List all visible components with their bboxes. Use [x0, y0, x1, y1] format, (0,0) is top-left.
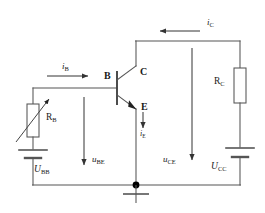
component-label-ucc: UCC: [211, 162, 227, 172]
terminal-label-base: B: [104, 71, 111, 81]
ground-symbol: [123, 185, 149, 203]
voltage-label-ube: uBE: [92, 155, 105, 164]
transistor-emitter-arrowhead: [128, 100, 136, 109]
resistor-rc-body: [234, 68, 246, 103]
terminal-label-collector: C: [140, 67, 147, 77]
terminal-label-emitter: E: [141, 102, 148, 112]
transistor-collector-lead: [117, 66, 136, 80]
circuit-diagram: B C E iB iC iE uBE uCE RB RC UBB UCC: [0, 0, 265, 213]
component-label-ubb: UBB: [34, 165, 50, 175]
current-label-ib: iB: [62, 62, 69, 71]
component-label-rc: RC: [214, 77, 225, 87]
component-label-rb: RB: [46, 113, 57, 123]
schematic-canvas: [0, 0, 265, 213]
voltage-label-uce: uCE: [163, 155, 176, 164]
current-label-ie: iE: [140, 130, 146, 138]
current-label-ic: iC: [207, 18, 214, 27]
